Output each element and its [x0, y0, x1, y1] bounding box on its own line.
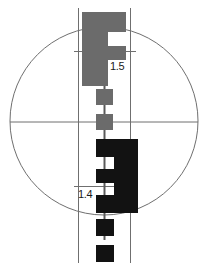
tick-label-lower: 1.4	[78, 189, 92, 200]
marker-square	[96, 245, 114, 262]
diagram-svg	[0, 0, 209, 271]
marker-square	[82, 74, 108, 86]
tick-label-upper: 1.5	[110, 61, 124, 72]
marker-square	[82, 12, 126, 32]
marker-square	[114, 157, 138, 169]
lower-dark-marker-group	[96, 139, 138, 262]
marker-square	[96, 169, 138, 183]
marker-square	[96, 114, 113, 130]
marker-square	[114, 183, 138, 195]
figure-canvas: 1.5 1.4	[0, 0, 209, 271]
marker-square	[82, 60, 108, 74]
marker-square	[82, 32, 108, 46]
marker-square	[82, 46, 126, 60]
marker-square	[96, 195, 138, 213]
marker-square	[96, 139, 138, 157]
marker-square	[96, 219, 114, 236]
marker-square	[96, 89, 113, 105]
